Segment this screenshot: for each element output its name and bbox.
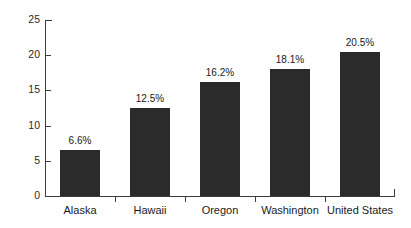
bar-value-label: 6.6% [45,136,115,146]
bar-value-label: 12.5% [115,94,185,104]
y-axis-tick-label: 10 [10,120,40,132]
y-axis-tick-label: 25 [10,14,40,26]
y-axis-tick-label: 15 [10,84,40,96]
y-axis-tick [45,20,51,21]
y-axis-tick-label-text: 0 [16,190,40,201]
bar[interactable] [340,52,380,196]
y-axis-tick [45,196,51,197]
y-axis-tick-label-text: 5 [16,155,40,166]
y-axis-line [45,20,46,197]
bar-value-label: 18.1% [255,55,325,65]
bar-value-label: 16.2% [185,68,255,78]
y-axis-tick-label: 20 [10,49,40,61]
bar[interactable] [200,82,240,196]
bar[interactable] [60,150,100,196]
bar[interactable] [270,69,310,196]
y-axis-tick [45,161,51,162]
x-axis-tick [185,196,186,202]
y-axis-tick-label-text: 25 [16,14,40,25]
x-axis-tick [255,196,256,202]
y-axis-tick-label-text: 20 [16,49,40,60]
y-axis-tick [45,126,51,127]
y-axis-tick [45,55,51,56]
bar-value-label: 20.5% [325,38,395,48]
x-axis-endcap-tick [394,189,395,197]
x-axis-tick [325,196,326,202]
y-axis-tick [45,90,51,91]
bar[interactable] [130,108,170,196]
y-axis-tick-label-text: 10 [16,120,40,131]
y-axis-tick-label-text: 15 [16,84,40,95]
x-axis-tick [115,196,116,202]
x-axis-line [45,196,395,197]
y-axis-tick-label: 0 [10,190,40,202]
y-axis-tick-label: 5 [10,155,40,167]
bar-chart: 0510152025 6.6%Alaska12.5%Hawaii16.2%Ore… [0,0,411,228]
x-axis-category-label: United States [315,205,405,216]
